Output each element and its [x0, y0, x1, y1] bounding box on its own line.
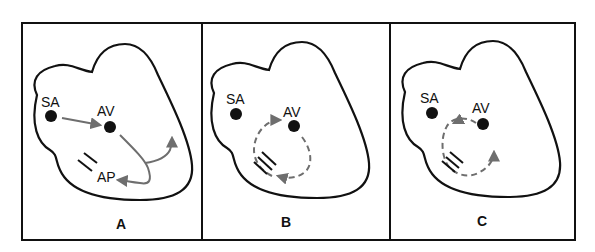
sa-label: SA	[41, 94, 60, 110]
av-label: AV	[97, 103, 115, 119]
ap-label: AP	[97, 169, 116, 185]
reentry-loop-arrow	[254, 120, 280, 176]
av-label: AV	[472, 100, 490, 116]
heart-outline	[211, 42, 369, 198]
panel-label: C	[477, 213, 487, 229]
conduction-arrow	[118, 135, 150, 183]
panel-c: SA AV C	[402, 41, 560, 229]
conduction-arrow	[145, 138, 172, 163]
sa-label: SA	[226, 91, 245, 107]
panel-label: A	[116, 216, 126, 232]
sa-label: SA	[420, 90, 439, 106]
conduction-figure: SA AV AP A SA AV B SA AV	[0, 0, 595, 252]
conduction-arrow	[62, 118, 100, 125]
sa-node	[230, 108, 242, 120]
panel-b: SA AV B	[211, 42, 369, 230]
av-node	[288, 120, 300, 132]
panel-a: SA AV AP A	[34, 44, 192, 232]
accessory-pathway-mark	[84, 153, 97, 163]
av-node	[104, 121, 116, 133]
figure-frame	[22, 23, 575, 240]
panel-label: B	[281, 214, 291, 230]
sa-node	[45, 110, 57, 122]
av-node	[477, 118, 489, 130]
av-label: AV	[283, 104, 301, 120]
sa-node	[426, 107, 438, 119]
reentry-loop-arrow	[278, 137, 310, 178]
accessory-pathway-mark	[78, 160, 92, 171]
